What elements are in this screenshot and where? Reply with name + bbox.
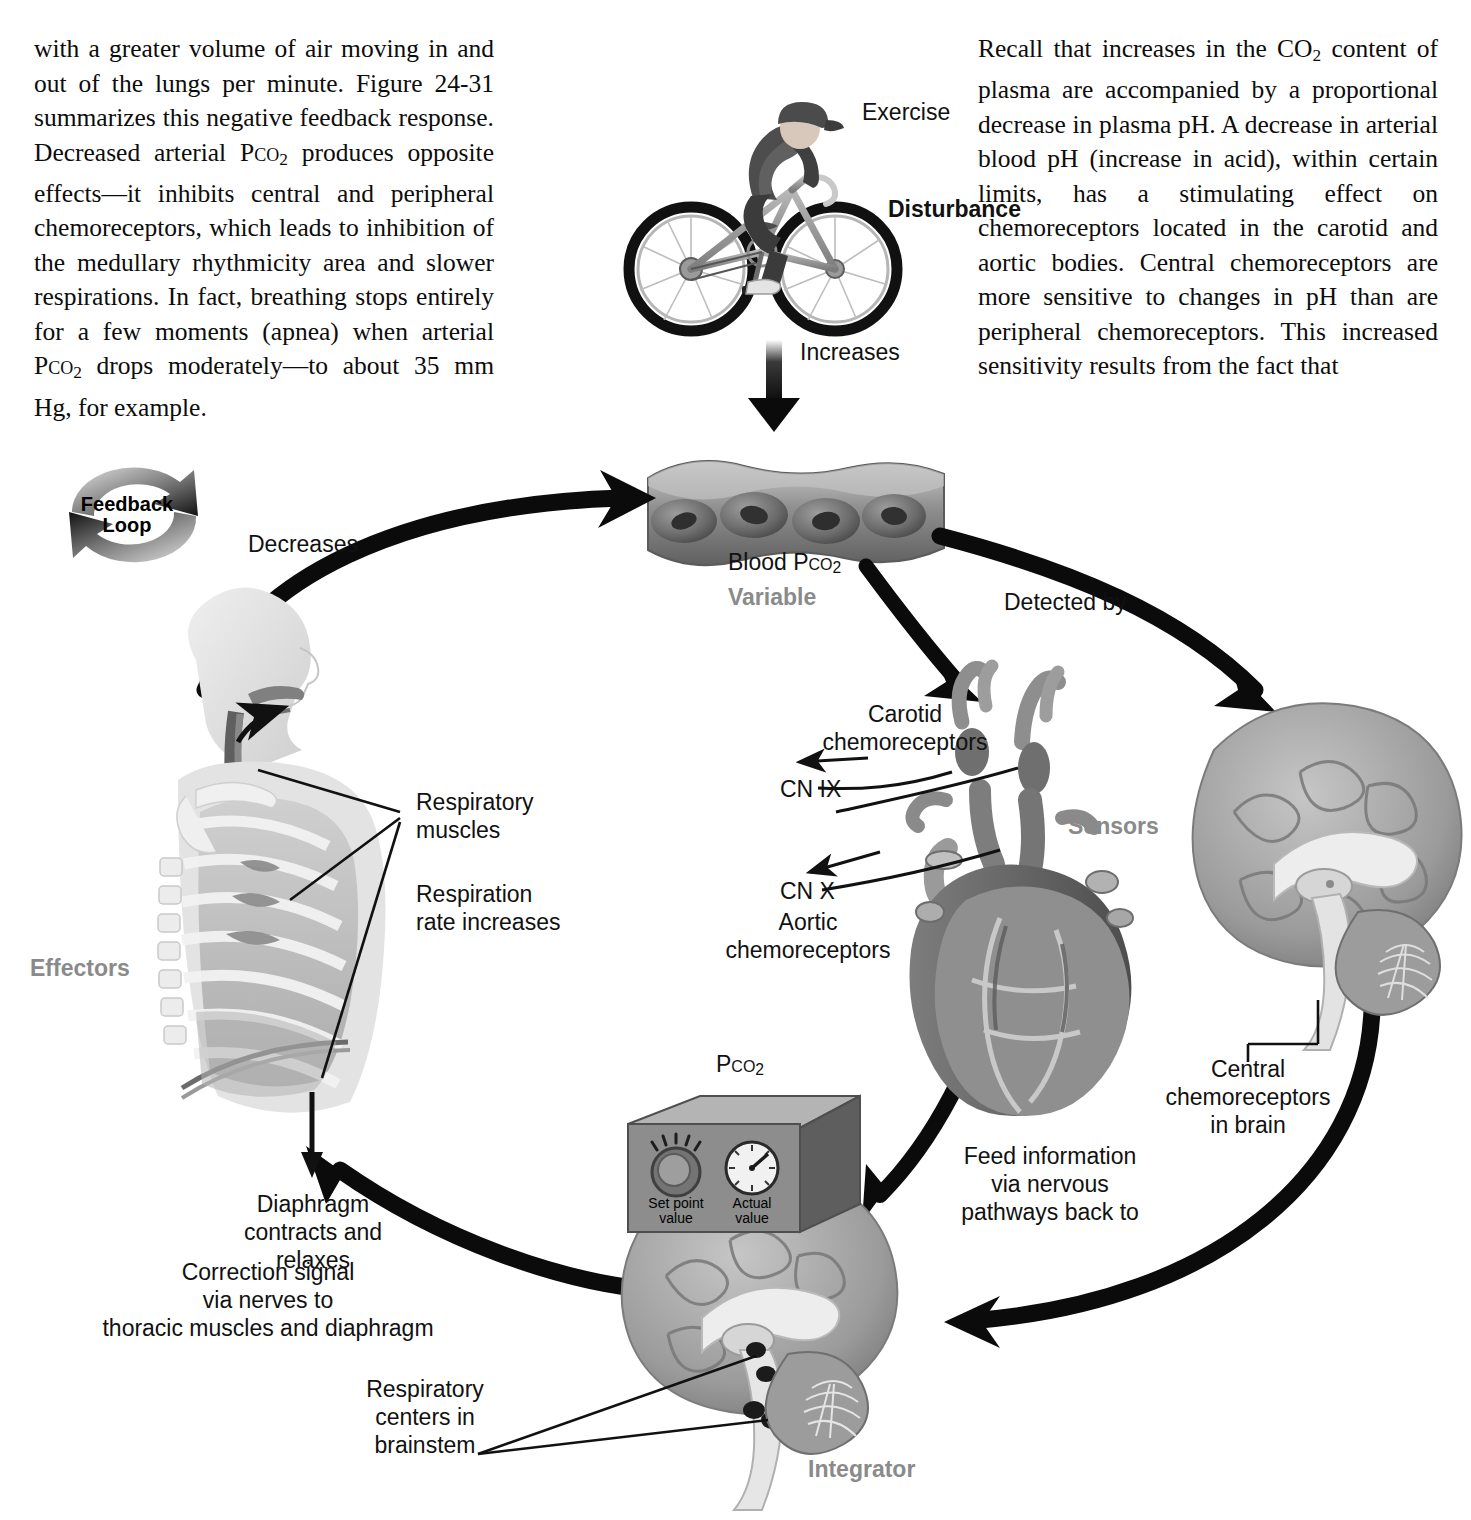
feedback-loop-label: Feedback Loop — [81, 494, 173, 536]
label-feed-information: Feed information via nervous pathways ba… — [961, 1142, 1139, 1226]
arrow-decreases-to-blood — [205, 470, 656, 690]
label-decreases: Decreases — [248, 530, 358, 558]
label-detected-by: Detected by — [1004, 588, 1127, 616]
label-cn-ix: CN IX — [780, 775, 841, 803]
paragraph-right: Recall that increases in the CO2 content… — [978, 32, 1438, 384]
paragraph-left: with a greater volume of air moving in a… — [34, 32, 494, 425]
label-respiration-rate: Respiration rate increases — [416, 880, 560, 936]
label-respiratory-centers: Respiratory centers in brainstem — [366, 1375, 484, 1459]
body-text-right-column: Recall that increases in the CO2 content… — [978, 32, 1438, 384]
feedback-loop-badge: Feedback Loop — [52, 455, 202, 575]
label-cn-x: CN X — [780, 877, 835, 905]
label-central-chemoreceptors: Central chemoreceptors in brain — [1166, 1055, 1331, 1139]
label-increases: Increases — [800, 338, 900, 366]
brain-sagittal-illustration-right — [1193, 703, 1462, 1062]
label-disturbance: Disturbance — [888, 195, 1021, 223]
label-blood-pco2: Blood Pco2 — [728, 548, 841, 582]
label-respiratory-muscles: Respiratory muscles — [416, 788, 534, 844]
label-effectors: Effectors — [30, 954, 130, 982]
label-variable: Variable — [728, 583, 816, 611]
label-carotid-chemoreceptors: Carotid chemoreceptors — [823, 700, 988, 756]
label-set-point-value: Set point value — [648, 1196, 703, 1226]
thorax-and-head-illustration — [158, 588, 400, 1178]
arrow-increases — [748, 340, 800, 432]
label-actual-value: Actual value — [733, 1196, 772, 1226]
arrow-detected-by — [866, 566, 982, 702]
label-aortic-chemoreceptors: Aortic chemoreceptors — [726, 908, 891, 964]
arrow-blood-to-central-chemoreceptors — [940, 536, 1276, 712]
respiratory-center-dots — [743, 1342, 783, 1429]
label-diaphragm: Diaphragm contracts and relaxes — [244, 1190, 382, 1274]
label-control-box-pco2: Pco2 — [716, 1050, 764, 1084]
label-integrator: Integrator — [808, 1455, 915, 1483]
label-sensors: Sensors — [1068, 812, 1159, 840]
label-exercise: Exercise — [862, 98, 950, 126]
cyclist-illustration — [629, 102, 897, 331]
body-text-left-column: with a greater volume of air moving in a… — [34, 32, 494, 425]
